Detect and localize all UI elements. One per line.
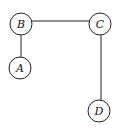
node-c-label: C bbox=[96, 18, 105, 31]
node-c: C bbox=[89, 13, 111, 35]
node-d-label: D bbox=[94, 105, 104, 118]
node-a: A bbox=[9, 57, 31, 79]
node-d: D bbox=[88, 100, 110, 122]
node-a-label: A bbox=[15, 62, 24, 75]
node-b: B bbox=[10, 13, 32, 35]
node-b-label: B bbox=[16, 18, 25, 31]
graph-svg: B C A D bbox=[0, 0, 122, 137]
graph-diagram: B C A D bbox=[0, 0, 122, 137]
